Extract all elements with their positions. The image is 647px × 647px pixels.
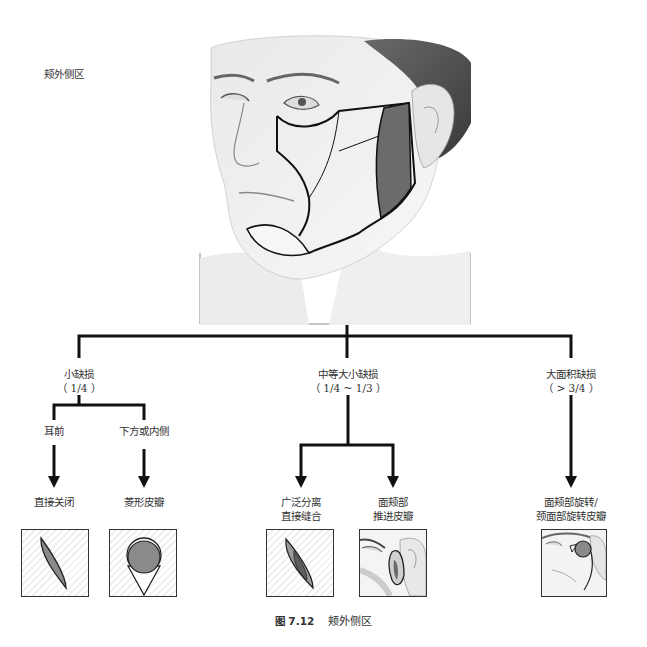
thumb-ellipse-defect [21, 529, 89, 597]
branch-large-defect-label: 大面积缺损 （ > 3/4 ） [521, 367, 621, 395]
branch-small-defect-label: 小缺损 （ 1/4 ） [29, 367, 129, 395]
branch-title: 中等大小缺损 [298, 367, 398, 381]
result-primary-closure: 直接关闭 [14, 495, 94, 509]
thumb-wide-undermining [266, 529, 334, 597]
branch-title: 大面积缺损 [521, 367, 621, 381]
branch-subtitle: （ > 3/4 ） [521, 381, 621, 395]
figure-caption: 图 7.12颊外侧区 [0, 612, 647, 628]
branch-medium-defect-label: 中等大小缺损 （ 1/4 ~ 1/3 ） [298, 367, 398, 395]
sublocation-inferior-medial: 下方或内侧 [99, 424, 189, 438]
result-line: 面颊部旋转/ [521, 495, 621, 509]
result-line: 广泛分离 [261, 495, 341, 509]
result-line: 直接缝合 [261, 509, 341, 523]
result-line: 推进皮瓣 [353, 509, 433, 523]
result-wide-undermining: 广泛分离 直接缝合 [261, 495, 341, 523]
sublocation-preauricular: 耳前 [24, 424, 84, 438]
branch-title: 小缺损 [29, 367, 129, 381]
branch-subtitle: （ 1/4 ） [29, 381, 129, 395]
result-cervicofacial-rotation-flap: 面颊部旋转/ 颈面部旋转皮瓣 [521, 495, 621, 523]
figure-title: 颊外侧区 [328, 615, 372, 628]
branch-subtitle: （ 1/4 ~ 1/3 ） [298, 381, 398, 395]
result-cheek-advancement-flap: 面颊部 推进皮瓣 [353, 495, 433, 523]
figure-number: 图 7.12 [275, 615, 315, 627]
result-line: 颈面部旋转皮瓣 [521, 509, 621, 523]
thumb-cheek-advancement [359, 529, 427, 597]
thumb-cervicofacial-rotation [541, 529, 607, 597]
result-line: 面颊部 [353, 495, 433, 509]
thumb-rhombic-flap [109, 529, 177, 597]
result-rhombic-flap: 菱形皮瓣 [104, 495, 184, 509]
